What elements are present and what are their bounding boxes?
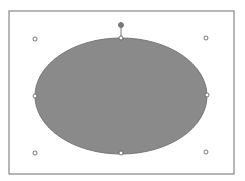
resize-handle-bottom[interactable]	[119, 151, 123, 155]
resize-handle-top[interactable]	[119, 36, 123, 40]
resize-handle-bottom-left[interactable]	[33, 151, 37, 155]
resize-handle-right[interactable]	[205, 93, 209, 97]
resize-handle-top-right[interactable]	[204, 36, 208, 40]
drawing-canvas[interactable]	[0, 0, 245, 181]
resize-handle-top-left[interactable]	[33, 37, 37, 41]
resize-handle-left[interactable]	[33, 94, 37, 98]
resize-handle-bottom-right[interactable]	[204, 150, 208, 154]
ellipse-shape[interactable]	[35, 38, 207, 154]
rotation-handle[interactable]	[119, 23, 124, 28]
